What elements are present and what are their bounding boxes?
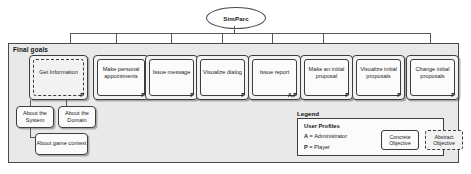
- goal-label: Visualize initial proposals: [354, 56, 403, 90]
- goal-profile-badge: P: [397, 92, 401, 98]
- goal-label: Issue report: [250, 56, 299, 90]
- root-node-label: SimParc: [223, 15, 248, 22]
- subgoal-box-about-the-system[interactable]: About the System: [16, 106, 54, 128]
- goal-profile-badge: A,P: [288, 92, 297, 98]
- legend-panel: User Profiles A = Administrator P = Play…: [297, 118, 444, 156]
- subgoal-box-about-game-context[interactable]: About game context: [35, 133, 88, 155]
- legend-profile-value: Player: [314, 144, 330, 150]
- legend-profile-administrator: A = Administrator: [304, 133, 347, 139]
- goal-box-make-an-initial-proposal[interactable]: Make an initial proposal P: [300, 55, 353, 100]
- legend-swatch-label: Concrete Objective: [382, 134, 418, 147]
- subgoal-box-about-the-domain[interactable]: About the Domain: [58, 106, 96, 128]
- subgoal-label: About game context: [37, 140, 87, 147]
- legend-swatch-abstract-objective: Abstract Objective: [425, 130, 463, 150]
- legend-profile-value: Administrator: [314, 133, 347, 139]
- goal-label: Get Information: [31, 56, 86, 90]
- goal-box-get-information[interactable]: Get Information P: [29, 55, 88, 100]
- goal-box-issue-message[interactable]: Issue message P: [145, 55, 198, 100]
- legend-swatch-label: Abstract Objective: [426, 134, 462, 147]
- legend-title: Legend: [297, 110, 319, 117]
- goal-label: Visualize dialog: [198, 56, 247, 90]
- connector-bus: [70, 33, 430, 34]
- goal-label: Make personal appointments: [95, 56, 147, 90]
- legend-swatch-concrete-objective: Concrete Objective: [381, 130, 419, 150]
- goal-box-visualize-dialog[interactable]: Visualize dialog P: [196, 55, 249, 100]
- goal-box-change-initial-proposals[interactable]: Change initial proposals P: [406, 55, 459, 100]
- goal-profile-badge: P: [190, 92, 194, 98]
- goal-label: Make an initial proposal: [302, 56, 351, 90]
- diagram-canvas: SimParc Final goals Get Information P Ma…: [0, 0, 471, 174]
- subgoal-label: About the Domain: [59, 110, 95, 124]
- goal-profile-badge: P: [80, 92, 84, 98]
- goal-profile-badge: P: [241, 92, 245, 98]
- goal-profile-badge: P: [345, 92, 349, 98]
- root-node-simparc[interactable]: SimParc: [206, 7, 266, 29]
- goal-label: Issue message: [147, 56, 196, 90]
- goal-box-issue-report[interactable]: Issue report A,P: [248, 55, 301, 100]
- goal-label: Change initial proposals: [408, 56, 457, 90]
- goal-box-visualize-initial-proposals[interactable]: Visualize initial proposals P: [352, 55, 405, 100]
- goal-box-make-personal-appointments[interactable]: Make personal appointments P: [93, 55, 149, 100]
- final-goals-title: Final goals: [13, 46, 48, 53]
- goal-profile-badge: P: [451, 92, 455, 98]
- legend-heading: User Profiles: [304, 123, 340, 129]
- legend-profile-player: P = Player: [304, 144, 330, 150]
- subgoal-label: About the System: [17, 110, 53, 124]
